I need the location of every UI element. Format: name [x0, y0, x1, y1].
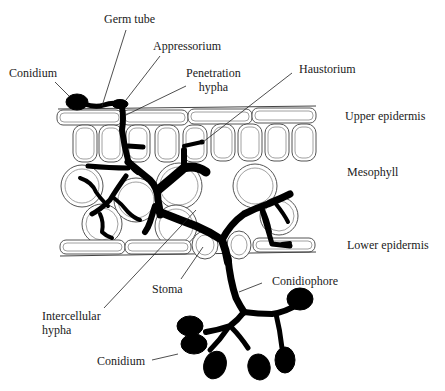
conidium-shape: [177, 316, 203, 336]
label-appressorium: Appressorium: [153, 39, 221, 53]
label-stoma: Stoma: [152, 282, 183, 296]
label-conidiophore: Conidiophore: [272, 274, 338, 288]
leader-appressorium: [126, 56, 160, 100]
conidium-shape: [200, 348, 230, 382]
label-mesophyll: Mesophyll: [347, 165, 398, 179]
conidium-shape: [287, 288, 313, 310]
conidium-shape: [275, 347, 295, 373]
label-lower-epidermis: Lower epidermis: [347, 238, 429, 252]
label-conidium-top: Conidium: [9, 66, 57, 80]
upper-epidermis-layer: [57, 106, 316, 125]
label-penetration-hypha: Penetration hypha: [186, 66, 241, 94]
label-germ-tube: Germ tube: [104, 12, 155, 26]
label-haustorium: Haustorium: [299, 62, 356, 76]
leader-germ-tube: [102, 30, 126, 106]
conidium-shape: [245, 352, 273, 383]
label-conidium-bottom: Conidium: [97, 354, 145, 368]
label-upper-epidermis: Upper epidermis: [345, 109, 425, 123]
leader-conidium-top: [55, 82, 69, 96]
label-intercellular-hypha: Intercellular hypha: [42, 309, 101, 337]
conidium-shape: [181, 334, 207, 354]
leader-conidium-bottom: [152, 354, 178, 360]
leader-conidiophore: [239, 283, 262, 292]
